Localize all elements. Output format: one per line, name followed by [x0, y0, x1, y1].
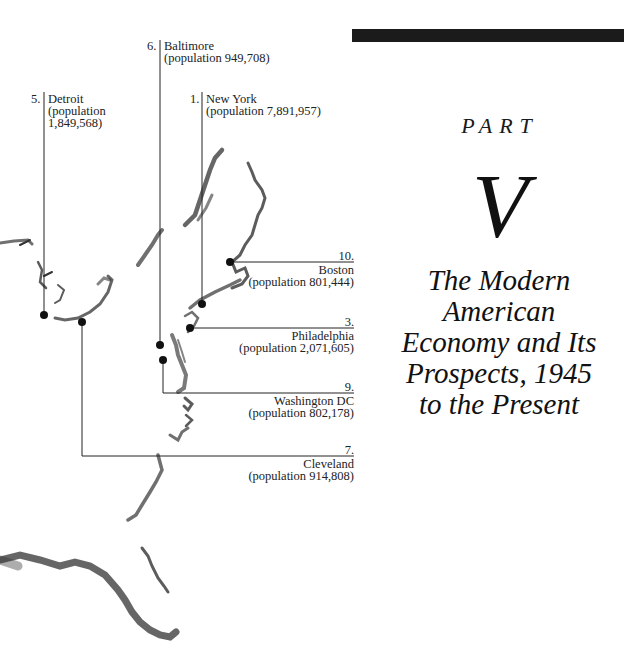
dot-cleveland [78, 318, 86, 326]
city-label-boston: 10. Boston (population 801,444) [248, 250, 354, 288]
dot-washington [159, 356, 167, 364]
dot-baltimore [156, 341, 164, 349]
city-dots [40, 258, 234, 364]
city-population: (population 801,444) [248, 276, 354, 288]
rank-detroit: 5. [31, 93, 40, 105]
city-label-cleveland: 7. Cleveland (population 914,808) [248, 444, 354, 482]
dot-boston [226, 258, 234, 266]
city-label-baltimore: Baltimore (population 949,708) [164, 40, 270, 64]
city-label-washington-dc: 9. Washington DC (population 802,178) [248, 381, 354, 419]
rank-new-york: 1. [190, 93, 199, 105]
title-line: American [372, 296, 626, 327]
city-rank: 7. [248, 444, 354, 456]
city-population: (population 949,708) [164, 52, 270, 64]
part-label: PART [440, 113, 560, 139]
city-label-new-york: New York (population 7,891,957) [206, 93, 321, 117]
city-rank: 3. [239, 316, 354, 328]
title-line: Economy and Its [372, 327, 626, 358]
rank-baltimore: 6. [147, 40, 156, 52]
city-label-detroit: Detroit (population 1,849,568) [48, 93, 106, 129]
city-rank: 9. [248, 381, 354, 393]
city-population: (population 802,178) [248, 407, 354, 419]
part-title: The Modern American Economy and Its Pros… [372, 265, 626, 420]
dot-philadelphia [186, 324, 194, 332]
city-population: (population 2,071,605) [239, 342, 354, 354]
city-population: 1,849,568) [48, 117, 106, 129]
city-rank: 10. [248, 250, 354, 262]
part-opener-page: 5. Detroit (population 1,849,568) 6. Bal… [0, 0, 629, 660]
city-label-philadelphia: 3. Philadelphia (population 2,071,605) [239, 316, 354, 354]
title-line: to the Present [372, 389, 626, 420]
part-number: V [440, 160, 560, 252]
city-population: (population 914,808) [248, 470, 354, 482]
city-population: (population 7,891,957) [206, 105, 321, 117]
dot-detroit [40, 311, 48, 319]
title-line: The Modern [372, 265, 626, 296]
title-line: Prospects, 1945 [372, 358, 626, 389]
dot-new-york [198, 300, 206, 308]
